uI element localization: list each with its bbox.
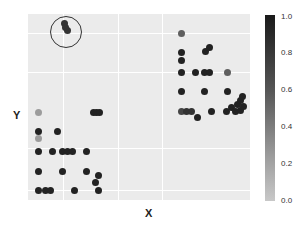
data-point <box>83 148 90 155</box>
colorbar-tick-label: 1.0 <box>281 12 292 21</box>
colorbar-tick-label: 0.0 <box>281 196 292 205</box>
gridline-vertical <box>162 14 163 200</box>
data-point <box>178 88 185 95</box>
data-point <box>54 128 61 135</box>
data-point <box>201 88 208 95</box>
highlight-circle-annotation <box>50 16 82 48</box>
data-point <box>35 168 42 175</box>
data-point <box>224 88 231 95</box>
colorbar <box>265 15 275 201</box>
data-point <box>35 135 42 142</box>
data-point <box>240 103 247 110</box>
data-point <box>208 108 215 115</box>
gridline-horizontal <box>28 72 250 73</box>
data-point <box>206 69 213 76</box>
gridline-vertical <box>118 14 119 200</box>
colorbar-tick-label: 0.2 <box>281 159 292 168</box>
data-point <box>96 109 103 116</box>
plot-panel <box>28 14 250 200</box>
data-point <box>224 69 231 76</box>
gridline-horizontal <box>28 190 250 191</box>
data-point <box>83 168 90 175</box>
data-point <box>92 179 99 186</box>
data-point <box>206 44 213 51</box>
data-point <box>178 30 185 37</box>
data-point <box>194 114 201 121</box>
data-point <box>95 187 102 194</box>
data-point <box>239 93 246 100</box>
data-point <box>35 128 42 135</box>
colorbar-tick-label: 0.8 <box>281 48 292 57</box>
y-axis-label: Y <box>13 109 20 121</box>
data-point <box>59 168 66 175</box>
data-point <box>192 69 199 76</box>
colorbar-tick-label: 0.6 <box>281 85 292 94</box>
data-point <box>35 148 42 155</box>
data-point <box>35 109 42 116</box>
data-point <box>178 69 185 76</box>
data-point <box>71 187 78 194</box>
data-point <box>35 187 42 194</box>
data-point <box>178 49 185 56</box>
colorbar-tick-label: 0.4 <box>281 122 292 131</box>
data-point <box>95 172 102 179</box>
data-point <box>49 148 56 155</box>
data-point <box>188 108 195 115</box>
data-point <box>178 57 185 64</box>
x-axis-label: X <box>145 207 152 219</box>
data-point <box>69 148 76 155</box>
data-point <box>47 187 54 194</box>
